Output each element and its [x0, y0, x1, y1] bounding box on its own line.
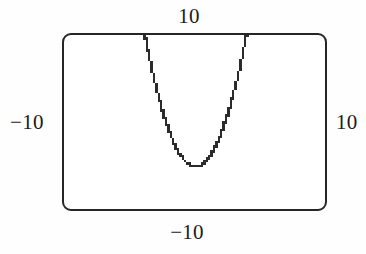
parabola-curve [143, 35, 249, 167]
axis-label-top: 10 [0, 6, 366, 27]
calculator-viewport-frame [62, 33, 327, 211]
axis-label-bottom: −10 [0, 222, 366, 243]
calculator-graph-figure: 10 −10 10 −10 [0, 0, 366, 254]
axis-label-left: −10 [10, 112, 44, 133]
axis-label-right: 10 [336, 112, 358, 133]
parabola-plot [64, 35, 325, 209]
